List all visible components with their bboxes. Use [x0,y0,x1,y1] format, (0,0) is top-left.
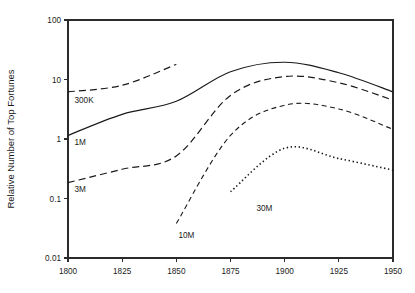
series-line-30m [231,147,394,192]
relative-top-fortunes-line-chart: 0.010.1110100 18001825185018751900192519… [0,0,415,293]
x-axis-ticks: 1800182518501875190019251950 [59,258,403,276]
data-series-group [68,62,393,223]
series-inline-labels: 300K1M3M10M30M [75,96,273,240]
x-tick-label: 1950 [384,267,403,276]
series-label-30m: 30M [257,204,273,213]
y-axis-title: Relative Number of Top Fortunes [5,69,16,208]
x-tick-label: 1800 [59,267,78,276]
plot-frame [68,20,393,258]
series-line-1m [68,62,393,135]
axis-frame [68,20,393,258]
y-axis-ticks: 0.010.1110100 [45,16,68,263]
series-line-300k [68,64,176,92]
y-tick-label: 1 [56,135,61,144]
y-tick-label: 100 [47,16,61,25]
x-tick-label: 1900 [276,267,295,276]
x-tick-label: 1925 [330,267,349,276]
y-tick-label: 10 [52,76,62,85]
y-tick-label: 0.01 [45,254,61,263]
series-label-10m: 10M [179,231,195,240]
x-tick-label: 1875 [221,267,240,276]
series-label-300k: 300K [75,96,95,105]
y-tick-label: 0.1 [50,195,62,204]
x-tick-label: 1825 [113,267,132,276]
series-label-3m: 3M [75,185,87,194]
chart-container: 0.010.1110100 18001825185018751900192519… [0,0,415,293]
series-line-3m [68,76,393,183]
x-tick-label: 1850 [167,267,186,276]
series-label-1m: 1M [75,138,87,147]
